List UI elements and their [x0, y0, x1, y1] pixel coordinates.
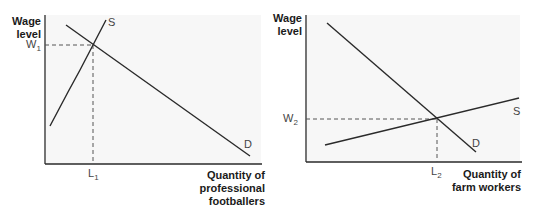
right-wage-tick-letter: W: [283, 112, 293, 124]
left-x-axis-title-line2: professional: [180, 182, 265, 195]
right-y-axis-title-line1: Wage: [262, 12, 302, 25]
right-plot-area: [307, 15, 520, 162]
left-wage-tick-letter: W: [26, 38, 36, 50]
right-y-axis-title: Wage level: [262, 12, 302, 38]
left-supply-label: S: [108, 16, 115, 28]
left-y-axis-title-line1: Wage: [0, 15, 41, 28]
left-x-axis-title: Quantity of professional footballers: [180, 169, 265, 208]
right-supply-label: S: [513, 105, 520, 117]
right-x-axis-title-line2: farm workers: [430, 181, 521, 194]
right-wage-tick-sub: 2: [293, 118, 297, 127]
right-wage-tick: W2: [283, 112, 298, 127]
left-demand-label: D: [244, 138, 252, 150]
right-x-axis-title: Quantity of farm workers: [430, 168, 521, 194]
right-demand-label: D: [472, 137, 480, 149]
left-quantity-tick-sub: 1: [94, 173, 98, 182]
right-x-axis-title-line1: Quantity of: [430, 168, 521, 181]
left-x-axis-title-line3: footballers: [180, 195, 265, 208]
left-quantity-tick: L1: [88, 167, 99, 182]
left-wage-tick-sub: 1: [36, 44, 40, 53]
left-x-axis-title-line1: Quantity of: [180, 169, 265, 182]
right-y-axis-title-line2: level: [262, 25, 302, 38]
left-wage-tick: W1: [26, 38, 41, 53]
